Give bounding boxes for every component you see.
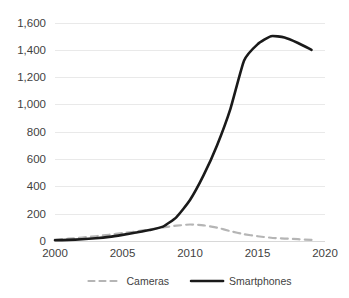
x-axis-tick-label: 2005 xyxy=(110,247,136,259)
y-axis-tick-label: 1,600 xyxy=(17,17,46,29)
y-axis-tick-label: 200 xyxy=(27,208,46,220)
y-axis-tick-label: 400 xyxy=(27,180,46,192)
y-axis-tick-label: 1,200 xyxy=(17,71,46,83)
legend-label-cameras: Cameras xyxy=(126,275,169,287)
y-axis-tick-label: 800 xyxy=(27,126,46,138)
line-chart: 02004006008001,0001,2001,4001,600 200020… xyxy=(0,0,349,298)
y-axis-tick-label: 600 xyxy=(27,153,46,165)
x-axis-tick-label: 2000 xyxy=(42,247,68,259)
x-axis-tick-label: 2015 xyxy=(245,247,271,259)
y-axis-tick-label: 1,000 xyxy=(17,98,46,110)
x-axis-tick-label: 2010 xyxy=(177,247,203,259)
x-axis-tick-label: 2020 xyxy=(312,247,338,259)
y-axis-tick-label: 1,400 xyxy=(17,44,46,56)
chart-canvas: 02004006008001,0001,2001,4001,600 200020… xyxy=(0,0,349,298)
y-axis-tick-label: 0 xyxy=(40,235,46,247)
legend-label-smartphones: Smartphones xyxy=(229,275,291,287)
